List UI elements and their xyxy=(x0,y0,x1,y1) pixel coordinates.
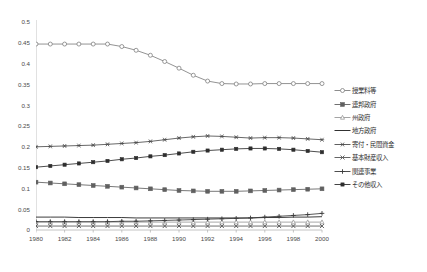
legend-item-7[interactable]: その他収入 xyxy=(334,178,426,191)
x-tick-label: 1992 xyxy=(194,235,222,242)
legend-item-6[interactable]: 関連事業 xyxy=(334,164,426,177)
y-tick-label: 0.3 xyxy=(0,102,30,109)
legend-marker-icon xyxy=(334,179,351,190)
x-tick-label: 1982 xyxy=(51,235,79,242)
legend-item-2[interactable]: 州政府 xyxy=(334,111,426,124)
series-line-7 xyxy=(36,147,324,169)
series-line-0 xyxy=(36,42,324,86)
series-line-5 xyxy=(36,224,324,228)
series-line-4 xyxy=(36,134,324,149)
legend-item-5[interactable]: 基本財産収入 xyxy=(334,151,426,164)
legend-marker-icon xyxy=(334,99,351,110)
series-line-1 xyxy=(36,180,324,193)
y-tick-label: 0.05 xyxy=(0,206,30,213)
legend-item-0[interactable]: 授業料等 xyxy=(334,84,426,97)
legend-marker-icon xyxy=(334,125,351,136)
x-tick-label: 1986 xyxy=(108,235,136,242)
legend-item-4[interactable]: 寄付・民間資金 xyxy=(334,138,426,151)
y-tick-label: 0.15 xyxy=(0,164,30,171)
y-tick-label: 0.45 xyxy=(0,39,30,46)
legend-marker-icon xyxy=(334,85,351,96)
y-tick-label: 0.25 xyxy=(0,122,30,129)
chart-legend: 授業料等連邦政府州政府地方政府寄付・民間資金基本財産収入関連事業その他収入 xyxy=(334,84,426,191)
x-tick-label: 1980 xyxy=(22,235,50,242)
y-tick-label: 0.5 xyxy=(0,18,30,25)
chart-root: 00.050.10.150.20.250.30.350.40.450.5 198… xyxy=(0,0,427,272)
y-tick-label: 0 xyxy=(0,226,30,233)
legend-label: その他収入 xyxy=(352,179,382,190)
legend-marker-icon xyxy=(334,166,351,177)
legend-label: 基本財産収入 xyxy=(352,152,388,163)
x-tick-label: 1984 xyxy=(79,235,107,242)
legend-marker-icon xyxy=(334,139,351,150)
y-tick-label: 0.2 xyxy=(0,143,30,150)
plot-area xyxy=(36,18,328,240)
legend-label: 関連事業 xyxy=(352,166,376,177)
legend-label: 地方政府 xyxy=(352,125,376,136)
legend-item-1[interactable]: 連邦政府 xyxy=(334,97,426,110)
legend-item-3[interactable]: 地方政府 xyxy=(334,124,426,137)
legend-label: 連邦政府 xyxy=(352,99,376,110)
legend-label: 寄付・民間資金 xyxy=(352,139,394,150)
x-tick-label: 1990 xyxy=(165,235,193,242)
legend-marker-icon xyxy=(334,152,351,163)
x-tick-label: 1996 xyxy=(251,235,279,242)
x-tick-label: 1988 xyxy=(136,235,164,242)
legend-marker-icon xyxy=(334,112,351,123)
x-tick-label: 2000 xyxy=(308,235,336,242)
y-tick-label: 0.1 xyxy=(0,185,30,192)
legend-label: 授業料等 xyxy=(352,85,376,96)
x-tick-label: 1994 xyxy=(222,235,250,242)
x-tick-label: 1998 xyxy=(279,235,307,242)
legend-label: 州政府 xyxy=(352,112,370,123)
y-tick-label: 0.35 xyxy=(0,81,30,88)
y-tick-label: 0.4 xyxy=(0,60,30,67)
chart-svg xyxy=(36,18,328,240)
